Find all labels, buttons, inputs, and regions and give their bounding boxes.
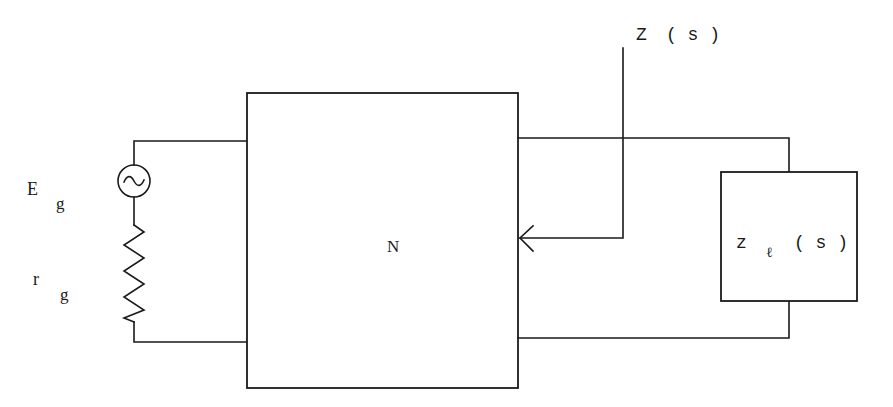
source-top-wire — [134, 141, 247, 165]
load-impedance-label: z — [736, 233, 747, 253]
resistor-icon — [124, 225, 144, 322]
resistor-label-subscript: g — [60, 285, 69, 304]
input-impedance-label: Z — [636, 25, 647, 45]
resistor-label: r — [33, 269, 39, 289]
load-bottom-wire — [518, 301, 789, 338]
impedance-pointer-line — [520, 48, 623, 238]
source-bottom-wire — [134, 322, 247, 342]
network-label: N — [387, 237, 399, 256]
load-impedance-subscript: ℓ — [766, 245, 773, 260]
source-loop — [124, 141, 247, 342]
load-top-wire — [518, 138, 789, 172]
source-label: E — [27, 179, 38, 199]
impedance-indicator — [520, 48, 623, 251]
load-impedance-arg: ( s ) — [794, 233, 848, 253]
source-label-subscript: g — [56, 194, 65, 213]
ac-source-icon — [118, 165, 150, 197]
circuit-diagram: N E g r g Z ( s ) z ℓ ( s ) — [0, 0, 893, 407]
input-impedance-arg: ( s ) — [666, 25, 720, 45]
network-box — [247, 93, 518, 388]
